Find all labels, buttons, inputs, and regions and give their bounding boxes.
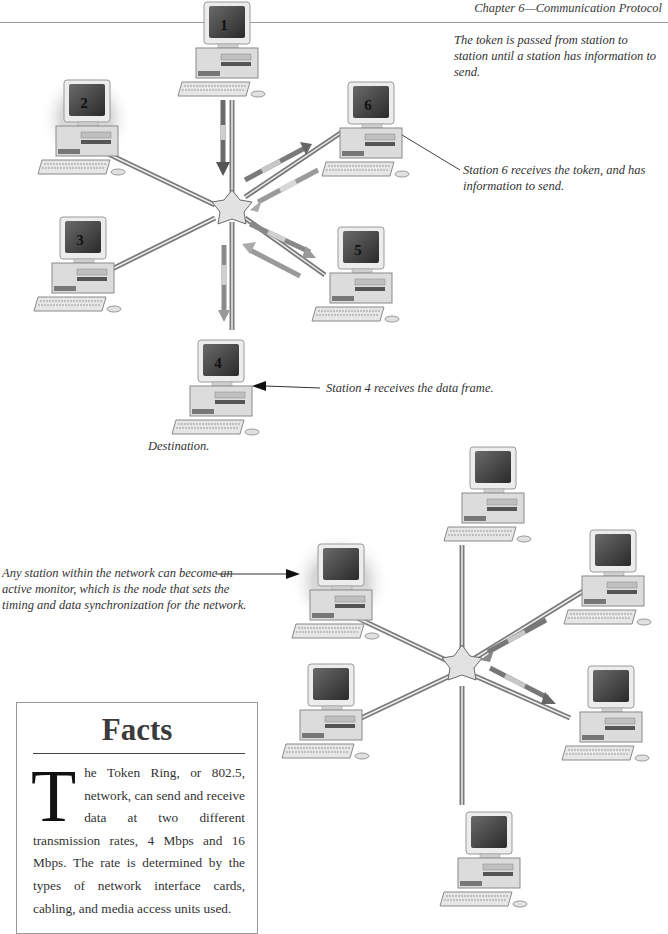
facts-dropcap: T [31,767,76,825]
facts-title: Facts [17,712,257,748]
svg-text:4: 4 [214,355,222,371]
facts-sidebar: Facts The Token Ring, or 802.5, network,… [16,702,258,934]
frame-arrow-to-4-icon [218,245,230,322]
station-4: 4 [172,340,259,435]
caption-station6: Station 6 receives the token, and has in… [463,162,663,194]
facts-body: The Token Ring, or 802.5, network, can s… [33,762,245,920]
caption-destination: Destination. [148,438,268,454]
station-b-right-bottom [562,666,649,761]
caption-token-passed: The token is passed from station to stat… [454,32,664,80]
station-active-monitor [290,532,390,639]
frame-arrow-from-6-icon [250,170,318,212]
caption-station4: Station 4 receives the data frame. [326,380,546,396]
caption-active-monitor: Any station within the network can becom… [2,565,260,613]
bottom-arrow-in-icon [480,620,546,662]
svg-text:5: 5 [354,242,362,258]
station-b-right-top [564,530,651,625]
station-3: 3 [34,217,121,312]
station-b-bottom [440,812,527,907]
station-1: 1 [178,2,265,97]
facts-divider [33,753,245,754]
station-b-left [282,664,369,759]
station-6: 6 [322,82,409,177]
svg-text:2: 2 [80,95,88,111]
station-b-top [444,447,531,542]
svg-text:3: 3 [76,232,84,248]
token-arrow-down-icon [216,100,230,176]
svg-text:1: 1 [220,17,228,33]
svg-text:6: 6 [364,97,372,113]
pointer-station4 [265,386,320,388]
frame-arrow-from-5-icon [242,242,300,276]
pointer-station6 [402,135,460,170]
